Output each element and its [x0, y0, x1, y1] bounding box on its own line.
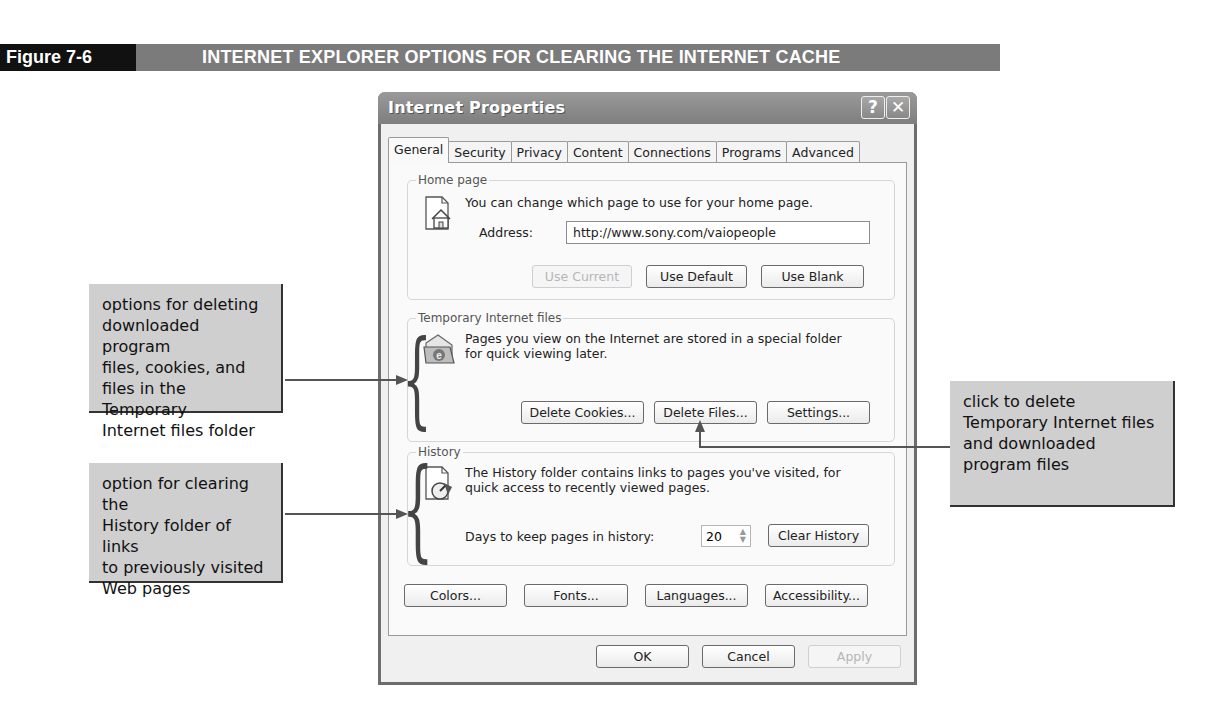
accessibility-button[interactable]: Accessibility...	[765, 584, 868, 607]
close-button[interactable]: ✕	[886, 96, 910, 119]
address-field[interactable]	[566, 221, 870, 244]
use-blank-button[interactable]: Use Blank	[761, 265, 864, 288]
ok-button[interactable]: OK	[596, 645, 689, 668]
tab-strip: General Security Privacy Content Connect…	[388, 138, 859, 163]
help-button[interactable]: ?	[861, 96, 885, 119]
connector-line-temp	[285, 379, 398, 381]
callout-text: click to delete	[963, 391, 1163, 412]
spinner-arrows-icon[interactable]: ▲▼	[740, 528, 746, 544]
callout-text: and downloaded	[963, 433, 1163, 454]
figure-title: INTERNET EXPLORER OPTIONS FOR CLEARING T…	[136, 44, 1000, 71]
tab-content[interactable]: Content	[567, 141, 629, 163]
home-page-description: You can change which page to use for you…	[465, 195, 813, 210]
callout-text: Web pages	[102, 578, 271, 599]
callout-text: Internet files folder	[102, 420, 271, 441]
home-page-group: Home page You can change which page to u…	[407, 180, 895, 300]
cancel-button[interactable]: Cancel	[702, 645, 795, 668]
temp-files-description-2: for quick viewing later.	[465, 346, 607, 361]
internet-properties-dialog: Internet Properties ? ✕ General Security…	[378, 92, 917, 685]
temp-files-description-1: Pages you view on the Internet are store…	[465, 331, 842, 346]
callout-delete-files: click to delete Temporary Internet files…	[950, 381, 1175, 507]
history-group: History The History folder contains link…	[407, 452, 895, 566]
connector-line-delete-files	[700, 446, 950, 448]
tab-general[interactable]: General	[388, 137, 449, 163]
colors-button[interactable]: Colors...	[404, 584, 507, 607]
languages-button[interactable]: Languages...	[645, 584, 748, 607]
connector-line-history	[285, 513, 398, 515]
callout-text: program files	[963, 454, 1163, 475]
settings-button[interactable]: Settings...	[767, 401, 870, 424]
tab-privacy[interactable]: Privacy	[511, 141, 568, 163]
dialog-title: Internet Properties	[388, 98, 565, 117]
figure-header: Figure 7-6 INTERNET EXPLORER OPTIONS FOR…	[0, 44, 1000, 71]
use-current-button[interactable]: Use Current	[532, 265, 632, 288]
connector-line-delete-files-vertical	[699, 430, 701, 448]
address-label: Address:	[479, 225, 533, 240]
history-description-1: The History folder contains links to pag…	[465, 465, 841, 480]
delete-cookies-button[interactable]: Delete Cookies...	[521, 401, 644, 424]
callout-text: option for clearing the	[102, 473, 271, 515]
svg-text:e: e	[436, 350, 442, 361]
home-page-icon	[422, 195, 458, 231]
general-tab-panel: Home page You can change which page to u…	[388, 162, 907, 636]
callout-text: to previously visited	[102, 557, 271, 578]
callout-text: files in the Temporary	[102, 378, 271, 420]
callout-text: options for deleting	[102, 294, 271, 315]
temporary-internet-files-group: Temporary Internet files e Pages you vie…	[407, 318, 895, 442]
history-description-2: quick access to recently viewed pages.	[465, 480, 710, 495]
delete-files-button[interactable]: Delete Files...	[654, 401, 757, 424]
days-to-keep-spinner[interactable]: 20 ▲▼	[701, 525, 751, 547]
clear-history-button[interactable]: Clear History	[768, 524, 869, 547]
callout-text: files, cookies, and	[102, 357, 271, 378]
tab-connections[interactable]: Connections	[628, 141, 717, 163]
brace-history-icon: {	[402, 454, 434, 564]
tab-programs[interactable]: Programs	[716, 141, 787, 163]
callout-temp-files: options for deleting downloaded program …	[89, 284, 283, 413]
figure-number: Figure 7-6	[0, 44, 136, 71]
apply-button[interactable]: Apply	[808, 645, 901, 668]
days-to-keep-label: Days to keep pages in history:	[465, 529, 654, 544]
arrow-up-icon	[695, 420, 705, 432]
use-default-button[interactable]: Use Default	[646, 265, 747, 288]
home-page-group-label: Home page	[416, 173, 489, 187]
title-bar[interactable]: Internet Properties ? ✕	[378, 92, 917, 124]
tab-advanced[interactable]: Advanced	[786, 141, 860, 163]
brace-temp-icon: {	[402, 327, 432, 431]
callout-history: option for clearing the History folder o…	[89, 463, 283, 583]
callout-text: Temporary Internet files	[963, 412, 1163, 433]
callout-text: History folder of links	[102, 515, 271, 557]
fonts-button[interactable]: Fonts...	[524, 584, 628, 607]
tab-security[interactable]: Security	[448, 141, 511, 163]
days-to-keep-value: 20	[706, 529, 722, 544]
temp-files-group-label: Temporary Internet files	[416, 311, 563, 325]
callout-text: downloaded program	[102, 315, 271, 357]
